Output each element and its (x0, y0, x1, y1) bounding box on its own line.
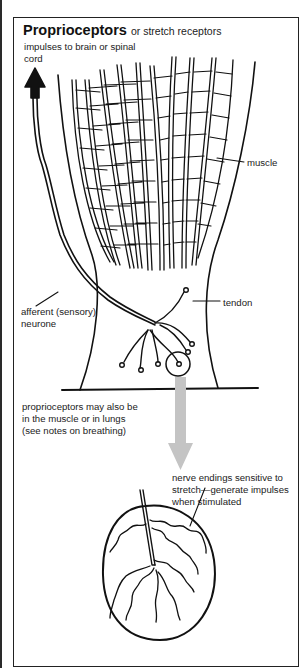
muscle-fibres (72, 57, 233, 270)
grey-arrow-icon (168, 377, 193, 470)
receptor-detail (103, 488, 215, 640)
nerve-branches (120, 288, 195, 376)
afferent-label-leader (36, 292, 58, 306)
black-arrow-icon (25, 68, 45, 98)
proprioceptor-illustration (0, 0, 307, 668)
wavy-nerve-endings (110, 520, 206, 622)
